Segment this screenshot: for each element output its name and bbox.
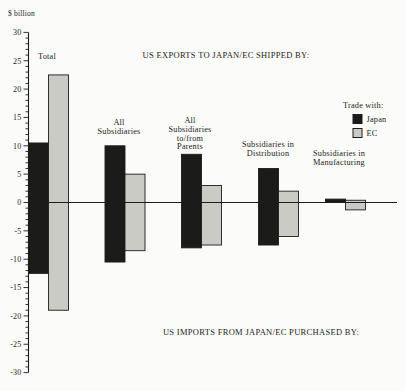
y-tick-label: 5 (17, 170, 21, 179)
y-axis-unit-label: $ billion (8, 9, 35, 18)
category-label-3: Distribution (247, 149, 290, 158)
category-label-4: Manufacturing (313, 158, 365, 167)
bar-japan-1 (105, 146, 125, 262)
y-tick-label: 25 (13, 57, 21, 66)
y-tick-label: -15 (10, 283, 21, 292)
category-label-3: Subsidiaries in (242, 140, 295, 149)
legend-label-japan: Japan (367, 115, 388, 124)
category-label-0: Total (38, 52, 56, 61)
bar-ec-4 (346, 200, 366, 210)
y-tick-label: -10 (10, 255, 21, 264)
category-label-4: Subsidiaries in (313, 149, 366, 158)
bar-japan-2 (182, 154, 202, 248)
y-tick-label: -25 (10, 340, 21, 349)
y-tick-label: 30 (13, 28, 21, 37)
legend-swatch-japan (353, 115, 362, 124)
y-tick-label: 15 (13, 113, 21, 122)
trade-chart-figure: -30-25-20-15-10-5051015202530TotalAllSub… (0, 0, 406, 391)
legend-swatch-ec (353, 129, 362, 138)
category-label-2: All (184, 116, 196, 125)
imports-title: US IMPORTS FROM JAPAN/EC PURCHASED BY: (163, 327, 359, 337)
bar-japan-3 (259, 168, 279, 245)
category-label-1: Subsidiaries (98, 127, 141, 136)
category-label-2: Subsidiaries (169, 125, 212, 134)
y-tick-label: 20 (13, 85, 21, 94)
legend-label-ec: EC (367, 129, 378, 138)
y-tick-label: -30 (10, 368, 21, 377)
category-label-2: to/from (177, 134, 204, 143)
bar-ec-2 (202, 185, 222, 245)
y-tick-label: 10 (13, 142, 21, 151)
exports-title: US EXPORTS TO JAPAN/EC SHIPPED BY: (143, 50, 310, 60)
y-tick-label: -5 (14, 227, 21, 236)
bar-japan-0 (29, 143, 49, 273)
bar-ec-0 (49, 75, 69, 310)
legend-title: Trade with: (343, 101, 383, 110)
bar-ec-1 (125, 174, 145, 251)
y-tick-label: -20 (10, 312, 21, 321)
category-label-1: All (113, 118, 125, 127)
trade-chart: -30-25-20-15-10-5051015202530TotalAllSub… (0, 0, 406, 391)
category-label-2: Parents (177, 142, 203, 151)
bar-ec-3 (279, 191, 299, 236)
y-tick-label: 0 (17, 198, 21, 207)
